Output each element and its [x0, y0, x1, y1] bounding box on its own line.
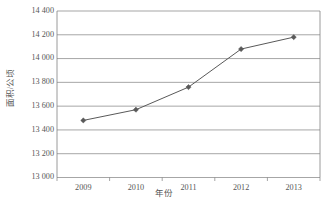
x-axis-title-text: 年份 [155, 188, 173, 198]
chart-container: 面积/公顷 14 40014 20014 00013 80013 60013 4… [0, 0, 328, 206]
x-axis-title: 年份 [0, 186, 328, 198]
x-axis-tick-labels: 20092010201120122013 [0, 0, 328, 206]
